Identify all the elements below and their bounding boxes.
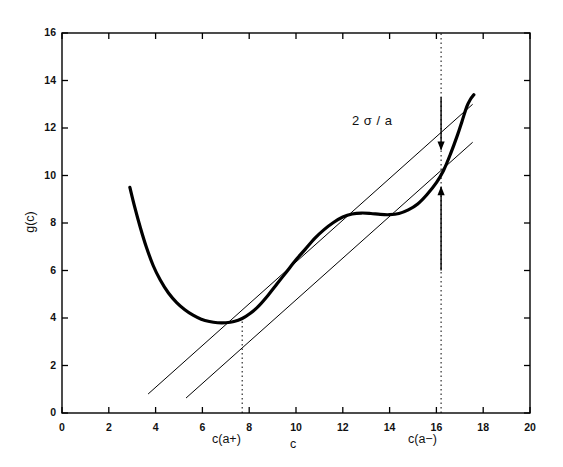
chart-canvas bbox=[0, 0, 563, 467]
x-tick-label: 2 bbox=[99, 421, 119, 433]
x-tick-label: 6 bbox=[192, 421, 212, 433]
up-arrow-head bbox=[437, 186, 444, 195]
y-tick-label: 12 bbox=[32, 121, 56, 133]
y-tick-label: 4 bbox=[32, 311, 56, 323]
y-tick-label: 0 bbox=[32, 406, 56, 418]
x-tick-label: 0 bbox=[52, 421, 72, 433]
c-a-minus-marker-label: c(a−) bbox=[408, 432, 437, 446]
x-tick-label: 12 bbox=[333, 421, 353, 433]
x-tick-label: 8 bbox=[239, 421, 259, 433]
x-tick-label: 10 bbox=[286, 421, 306, 433]
dotted-guide-lines bbox=[242, 33, 441, 413]
y-tick-label: 6 bbox=[32, 264, 56, 276]
y-axis-ticks bbox=[62, 33, 530, 413]
x-tick-label: 14 bbox=[380, 421, 400, 433]
y-tick-label: 16 bbox=[32, 26, 56, 38]
x-tick-label: 4 bbox=[146, 421, 166, 433]
lower-tangent-line bbox=[186, 142, 473, 398]
plot-frame bbox=[62, 33, 530, 413]
gap-arrows bbox=[437, 97, 444, 270]
x-tick-label: 20 bbox=[520, 421, 540, 433]
y-tick-label: 14 bbox=[32, 74, 56, 86]
x-tick-label: 18 bbox=[473, 421, 493, 433]
g-of-c-curve bbox=[130, 95, 474, 323]
y-axis-title: g(c) bbox=[23, 202, 37, 242]
down-arrow-head bbox=[437, 142, 444, 151]
y-tick-label: 10 bbox=[32, 169, 56, 181]
y-tick-label: 2 bbox=[32, 359, 56, 371]
x-axis-ticks bbox=[62, 33, 530, 413]
figure-container: 02468101214161820 0246810121416 c g(c) 2… bbox=[0, 0, 563, 467]
x-axis-title: c bbox=[290, 437, 296, 451]
two-sigma-over-a-label: 2 σ / a bbox=[352, 113, 392, 128]
upper-tangent-line bbox=[148, 104, 473, 394]
c-a-plus-marker-label: c(a+) bbox=[212, 432, 241, 446]
tangent-lines bbox=[148, 104, 473, 398]
